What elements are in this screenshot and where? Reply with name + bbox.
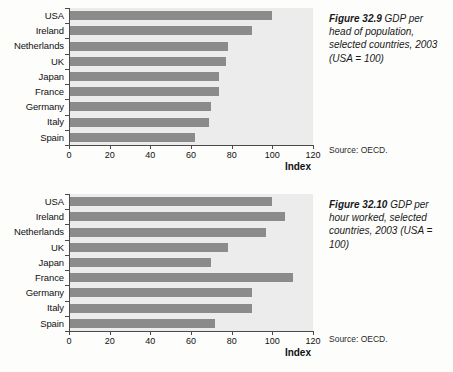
- x-axis-tick: [272, 145, 273, 149]
- y-axis-line: [69, 8, 70, 145]
- y-axis-label-france: France: [0, 84, 69, 99]
- figure-caption-2: Figure 32.10 GDP per hour worked, select…: [329, 198, 447, 251]
- bar-row: [69, 54, 313, 69]
- x-axis-tick-label-80: 80: [227, 150, 237, 160]
- y-axis-tick: [65, 69, 69, 70]
- x-axis-ticks: 020406080100120: [69, 145, 314, 150]
- x-axis-tick-label-100: 100: [265, 336, 280, 346]
- bar-row: [69, 8, 313, 23]
- bar-france: [69, 273, 293, 282]
- bar-row: [69, 115, 313, 130]
- x-axis-tick: [232, 145, 233, 149]
- figure-number-2: Figure 32.10: [329, 199, 387, 210]
- bar-uk: [69, 243, 228, 252]
- x-axis-tick-label-20: 20: [105, 150, 115, 160]
- y-axis-tick: [65, 224, 69, 225]
- x-axis-tick: [69, 331, 70, 335]
- x-axis-tick: [110, 331, 111, 335]
- bar-series: [69, 194, 313, 331]
- bar-japan: [69, 72, 219, 81]
- bar-row: [69, 84, 313, 99]
- bar-italy: [69, 118, 209, 127]
- bar-usa: [69, 11, 272, 20]
- bar-row: [69, 194, 313, 209]
- bar-chart-gdp-per-head: USAIrelandNetherlandsUKJapanFranceGerman…: [0, 0, 320, 186]
- y-axis-tick: [65, 240, 69, 241]
- figure-source-1: Source: OECD.: [329, 145, 447, 155]
- y-axis-tick: [65, 316, 69, 317]
- bar-italy: [69, 304, 252, 313]
- figure-block-2: USAIrelandNetherlandsUKJapanFranceGerman…: [0, 186, 453, 372]
- bar-japan: [69, 258, 211, 267]
- y-axis-tick: [65, 8, 69, 9]
- x-axis-tick-label-0: 0: [66, 150, 71, 160]
- x-axis-tick-label-20: 20: [105, 336, 115, 346]
- figure-page: USAIrelandNetherlandsUKJapanFranceGerman…: [0, 0, 453, 372]
- x-axis-tick-label-60: 60: [186, 336, 196, 346]
- x-axis-tick: [191, 331, 192, 335]
- y-axis-label-germany: Germany: [0, 99, 69, 114]
- x-axis-title: Index: [69, 347, 314, 358]
- figure-number-1: Figure 32.9: [329, 13, 382, 24]
- y-axis-label-germany: Germany: [0, 285, 69, 300]
- bar-netherlands: [69, 42, 228, 51]
- bar-row: [69, 224, 313, 239]
- y-axis-label-france: France: [0, 270, 69, 285]
- x-axis-tick: [150, 145, 151, 149]
- bar-row: [69, 316, 313, 331]
- y-axis-category-labels: USAIrelandNetherlandsUKJapanFranceGerman…: [0, 194, 69, 331]
- x-axis-tick: [191, 145, 192, 149]
- x-axis-tick-label-80: 80: [227, 336, 237, 346]
- bar-row: [69, 255, 313, 270]
- y-axis-tick: [65, 331, 69, 332]
- bar-germany: [69, 288, 252, 297]
- bar-row: [69, 285, 313, 300]
- y-axis-label-ireland: Ireland: [0, 23, 69, 38]
- bar-series: [69, 8, 313, 145]
- bar-usa: [69, 197, 272, 206]
- figure-source-2: Source: OECD.: [329, 334, 447, 344]
- y-axis-label-netherlands: Netherlands: [0, 38, 69, 53]
- y-axis-label-uk: UK: [0, 54, 69, 69]
- y-axis-tick: [65, 99, 69, 100]
- y-axis-label-usa: USA: [0, 8, 69, 23]
- x-axis-tick: [232, 331, 233, 335]
- x-axis-ticks: 020406080100120: [69, 331, 314, 336]
- y-axis-label-japan: Japan: [0, 69, 69, 84]
- x-axis-tick-label-40: 40: [145, 336, 155, 346]
- x-axis-tick: [313, 331, 314, 335]
- x-axis-tick: [69, 145, 70, 149]
- y-axis-label-japan: Japan: [0, 255, 69, 270]
- x-axis-tick: [110, 145, 111, 149]
- bar-row: [69, 38, 313, 53]
- y-axis-label-usa: USA: [0, 194, 69, 209]
- bar-netherlands: [69, 228, 266, 237]
- figure-caption-1: Figure 32.9 GDP per head of population, …: [329, 12, 447, 65]
- y-axis-label-italy: Italy: [0, 301, 69, 316]
- bar-spain: [69, 133, 195, 142]
- y-axis-line: [69, 194, 70, 331]
- bar-row: [69, 240, 313, 255]
- y-axis-tick: [65, 54, 69, 55]
- bar-row: [69, 301, 313, 316]
- x-axis-tick-label-120: 120: [305, 336, 320, 346]
- y-axis-tick: [65, 285, 69, 286]
- bar-row: [69, 23, 313, 38]
- y-axis-tick: [65, 301, 69, 302]
- y-axis-label-spain: Spain: [0, 316, 69, 331]
- x-axis-tick-label-40: 40: [145, 150, 155, 160]
- x-axis-tick-label-60: 60: [186, 150, 196, 160]
- bar-chart-gdp-per-hour: USAIrelandNetherlandsUKJapanFranceGerman…: [0, 186, 320, 372]
- bar-spain: [69, 319, 215, 328]
- x-axis-tick: [313, 145, 314, 149]
- y-axis-tick: [65, 194, 69, 195]
- y-axis-tick: [65, 209, 69, 210]
- x-axis-tick-label-120: 120: [305, 150, 320, 160]
- x-axis-tick-label-0: 0: [66, 336, 71, 346]
- y-axis-label-ireland: Ireland: [0, 209, 69, 224]
- bar-row: [69, 99, 313, 114]
- bar-ireland: [69, 212, 285, 221]
- y-axis-tick: [65, 38, 69, 39]
- x-axis-tick-label-100: 100: [265, 150, 280, 160]
- plot-area: [69, 194, 313, 331]
